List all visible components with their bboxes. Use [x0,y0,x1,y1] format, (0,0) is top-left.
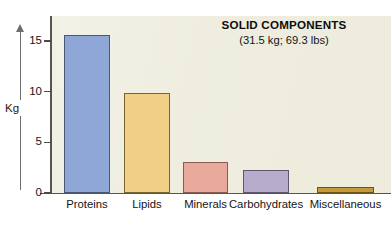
chart-subtitle: (31.5 kg; 69.3 lbs) [189,33,379,47]
bar-lipids [124,93,170,193]
bar-proteins [64,35,110,193]
bar-minerals [183,162,228,193]
bar-miscellaneous [317,187,374,193]
bar-carbohydrates [243,170,289,193]
chart-title: SOLID COMPONENTS [189,18,379,32]
chart-title-block: SOLID COMPONENTS (31.5 kg; 69.3 lbs) [189,18,379,47]
bar-chart: Kg 051015 ProteinsLipidsMineralsCarbohyd… [0,0,391,226]
x-label-miscellaneous: Miscellaneous [296,197,391,211]
